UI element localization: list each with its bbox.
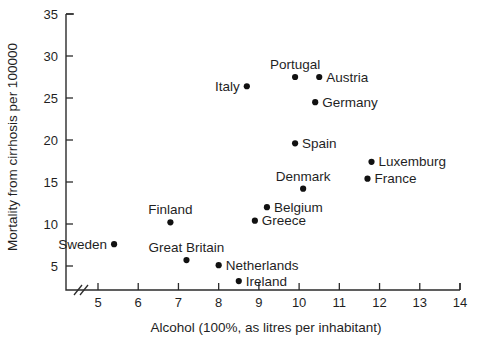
point-label: Belgium xyxy=(274,200,323,215)
y-tick-label: 25 xyxy=(44,91,58,106)
point-marker xyxy=(300,186,306,192)
point-marker xyxy=(183,257,189,263)
point-label: Sweden xyxy=(58,237,107,252)
x-tick-label: 6 xyxy=(135,295,142,310)
y-axis-title: Mortality from cirrhosis per 100000 xyxy=(5,43,20,251)
point-marker xyxy=(111,241,117,247)
point-label: Netherlands xyxy=(226,258,299,273)
data-point: Germany xyxy=(312,95,378,110)
y-tick-label: 30 xyxy=(44,49,58,64)
x-tick-label: 9 xyxy=(255,295,262,310)
data-point: Netherlands xyxy=(216,258,299,273)
y-tick-label: 5 xyxy=(51,259,58,274)
point-marker xyxy=(368,159,374,165)
data-point: Spain xyxy=(292,136,337,151)
point-label: Denmark xyxy=(276,169,331,184)
point-marker xyxy=(292,140,298,146)
point-marker xyxy=(244,83,250,89)
data-point: Denmark xyxy=(276,169,331,192)
x-tick-label: 7 xyxy=(175,295,182,310)
x-tick-label: 13 xyxy=(413,295,427,310)
x-tick-label: 12 xyxy=(372,295,386,310)
data-point: Greece xyxy=(252,213,306,228)
point-marker xyxy=(236,278,242,284)
x-tick-label: 5 xyxy=(94,295,101,310)
point-label: France xyxy=(374,171,416,186)
point-label: Luxemburg xyxy=(379,154,447,169)
point-marker xyxy=(216,262,222,268)
x-tick-label: 8 xyxy=(215,295,222,310)
data-point: Austria xyxy=(316,70,369,85)
scatter-chart: 5101520253035567891011121314SwedenFinlan… xyxy=(0,0,481,351)
x-tick-label: 14 xyxy=(453,295,467,310)
point-label: Ireland xyxy=(246,274,287,289)
point-marker xyxy=(292,74,298,80)
y-tick-label: 15 xyxy=(44,175,58,190)
point-label: Italy xyxy=(215,79,240,94)
data-point: Italy xyxy=(215,79,250,94)
point-marker xyxy=(252,218,258,224)
point-label: Austria xyxy=(326,70,369,85)
y-tick-label: 35 xyxy=(44,7,58,22)
y-tick-label: 10 xyxy=(44,217,58,232)
y-tick-label: 20 xyxy=(44,133,58,148)
point-marker xyxy=(312,99,318,105)
point-label: Spain xyxy=(302,136,337,151)
data-point: Great Britain xyxy=(149,240,225,263)
x-tick-label: 10 xyxy=(292,295,306,310)
data-point: Finland xyxy=(148,202,192,225)
x-tick-label: 11 xyxy=(333,295,347,310)
chart-canvas: 5101520253035567891011121314SwedenFinlan… xyxy=(0,0,481,351)
point-label: Portugal xyxy=(270,57,320,72)
point-marker xyxy=(167,219,173,225)
data-point: France xyxy=(364,171,416,186)
data-point: Luxemburg xyxy=(368,154,446,169)
point-label: Finland xyxy=(148,202,192,217)
axis-spines xyxy=(66,14,460,290)
data-point: Portugal xyxy=(270,57,320,80)
point-marker xyxy=(364,176,370,182)
point-label: Germany xyxy=(322,95,378,110)
point-marker xyxy=(264,204,270,210)
point-marker xyxy=(316,74,322,80)
point-label: Greece xyxy=(262,213,306,228)
point-label: Great Britain xyxy=(149,240,225,255)
data-point: Sweden xyxy=(58,237,117,252)
x-axis-title: Alcohol (100%, as litres per inhabitant) xyxy=(150,320,381,335)
data-point: Ireland xyxy=(236,274,287,289)
